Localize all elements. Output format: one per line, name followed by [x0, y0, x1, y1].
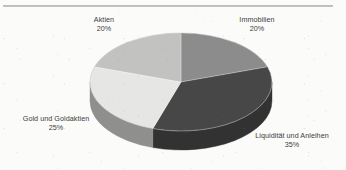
- slice-label-liquiditaet-und-anleihen-name: Liquidität und Anleihen: [238, 131, 346, 140]
- slice-label-liquiditaet-und-anleihen: Liquidität und Anleihen 35%: [238, 131, 346, 150]
- slice-label-gold-und-goldaktien-percent: 25%: [2, 123, 110, 132]
- slice-label-immobilien: Immobilien 20%: [212, 15, 302, 34]
- slice-label-liquiditaet-und-anleihen-percent: 35%: [238, 140, 346, 149]
- slice-label-aktien-name: Aktien: [62, 15, 146, 24]
- slice-label-gold-und-goldaktien-name: Gold und Goldaktien: [2, 114, 110, 123]
- slice-label-immobilien-percent: 20%: [212, 24, 302, 33]
- pie-chart-figure: Aktien 20% Immobilien 20% Gold und Golda…: [0, 0, 346, 170]
- slice-label-immobilien-name: Immobilien: [212, 15, 302, 24]
- slice-label-aktien: Aktien 20%: [62, 15, 146, 34]
- slice-label-gold-und-goldaktien: Gold und Goldaktien 25%: [2, 114, 110, 133]
- pie-top-faces: [90, 33, 272, 131]
- slice-label-aktien-percent: 20%: [62, 24, 146, 33]
